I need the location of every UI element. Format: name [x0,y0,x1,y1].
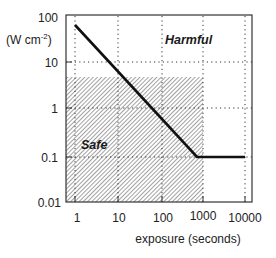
chart: Harmful Safe 100 10 1 0.1 0.01 (W cm-2) … [0,0,276,258]
y-tick-0.01: 0.01 [38,196,62,210]
y-tick-1: 1 [51,102,58,116]
y-axis-label: (W cm-2) [6,32,52,47]
x-tick-labels: 1 10 100 1000 10000 [74,209,262,225]
x-axis-label: exposure (seconds) [135,232,240,246]
y-axis-label-base: (W cm [6,33,41,47]
x-tick-10: 10 [112,211,126,225]
x-tick-1: 1 [74,211,81,225]
x-tick-10000: 10000 [228,211,262,225]
harmful-label: Harmful [165,33,213,47]
safe-label: Safe [81,138,107,152]
y-tick-100: 100 [38,11,58,25]
x-tick-100: 100 [153,211,173,225]
y-axis-label-close: ) [48,33,52,47]
x-tick-1000: 1000 [190,209,217,223]
y-tick-0.1: 0.1 [41,151,58,165]
y-tick-10: 10 [45,56,59,70]
